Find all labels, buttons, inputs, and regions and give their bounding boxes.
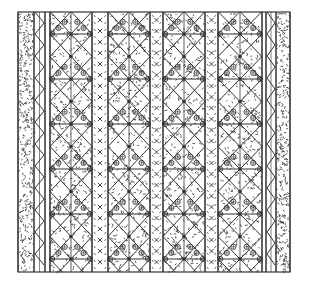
speckle-mark: [27, 204, 30, 205]
speckle-mark: [115, 220, 117, 221]
dash-mark: [105, 64, 107, 66]
speckle-mark: [279, 86, 281, 87]
speckle-mark: [281, 189, 283, 190]
speckle-mark: [277, 203, 279, 204]
dash-mark: [207, 134, 209, 136]
speckle-mark: [280, 255, 281, 256]
speckle-mark: [233, 167, 234, 168]
speckle-mark: [109, 267, 110, 269]
speckle-mark: [85, 126, 87, 127]
speckle-mark: [228, 183, 230, 184]
dash-mark: [160, 232, 162, 234]
dash-mark: [207, 50, 209, 52]
speckle-mark: [255, 99, 256, 101]
dash-mark: [160, 57, 162, 59]
dash-mark: [160, 22, 162, 24]
dash-mark: [215, 232, 217, 234]
speckle-mark: [279, 97, 281, 98]
speckle-mark: [59, 126, 60, 127]
dash-mark: [215, 57, 217, 59]
speckle-mark: [284, 13, 286, 14]
dash-mark: [105, 197, 107, 199]
speckle-mark: [27, 19, 29, 20]
speckle-mark: [284, 163, 285, 166]
speckle-mark: [202, 253, 203, 255]
speckle-mark: [222, 228, 224, 230]
speckle-mark: [174, 18, 175, 20]
speckle-mark: [284, 142, 287, 143]
speckle-mark: [283, 269, 285, 270]
speckle-mark: [78, 189, 80, 191]
dash-mark: [105, 211, 107, 213]
speckle-mark: [120, 197, 121, 198]
speckle-mark: [29, 34, 32, 35]
speckle-mark: [283, 216, 285, 218]
speckle-mark: [21, 113, 23, 114]
dash-mark: [215, 113, 217, 115]
node-dot: [238, 32, 242, 36]
speckle-mark: [19, 93, 20, 94]
speckle-mark: [126, 21, 127, 23]
speckle-mark: [282, 254, 283, 256]
speckle-mark: [278, 139, 279, 141]
dash-mark: [152, 155, 154, 157]
speckle-mark: [144, 115, 145, 116]
speckle-mark: [237, 202, 240, 203]
speckle-mark: [177, 171, 179, 172]
speckle-mark: [280, 139, 281, 141]
speckle-mark: [84, 231, 87, 232]
speckle-mark: [20, 199, 22, 200]
speckle-mark: [228, 198, 230, 199]
speckle-mark: [115, 235, 117, 236]
pattern-frame: [18, 12, 290, 272]
speckle-mark: [286, 20, 287, 22]
dash-mark: [160, 50, 162, 52]
speckle-mark: [146, 197, 147, 200]
speckle-mark: [122, 226, 123, 227]
speckle-mark: [133, 192, 135, 193]
speckle-mark: [167, 136, 168, 137]
node-dot: [127, 257, 131, 261]
dash-mark: [160, 169, 162, 171]
speckle-mark: [285, 96, 287, 98]
speckle-mark: [220, 252, 221, 255]
dash-mark: [160, 225, 162, 227]
speckle-mark: [191, 132, 192, 134]
speckle-mark: [56, 106, 58, 107]
speckle-mark: [199, 191, 200, 192]
speckle-mark: [142, 65, 145, 67]
speckle-mark: [135, 49, 137, 51]
dash-mark: [94, 85, 96, 87]
dash-mark: [207, 71, 209, 73]
speckle-mark: [72, 268, 73, 270]
speckle-mark: [181, 177, 182, 180]
speckle-mark: [245, 146, 247, 148]
speckle-mark: [199, 67, 200, 69]
dash-mark: [105, 92, 107, 94]
speckle-mark: [57, 271, 58, 274]
speckle-mark: [251, 131, 252, 132]
speckle-mark: [29, 224, 31, 225]
speckle-mark: [73, 185, 76, 186]
speckle-mark: [241, 27, 243, 29]
speckle-mark: [24, 43, 25, 45]
speckle-mark: [22, 121, 23, 123]
speckle-mark: [77, 218, 79, 219]
dash-mark: [152, 162, 154, 164]
speckle-mark: [26, 89, 28, 90]
speckle-mark: [81, 84, 82, 86]
speckle-mark: [115, 258, 116, 261]
dash-mark: [94, 190, 96, 192]
dash-mark: [160, 134, 162, 136]
speckle-mark: [279, 214, 280, 215]
dash-mark: [207, 176, 209, 178]
speckle-mark: [19, 112, 21, 113]
speckle-mark: [148, 190, 149, 192]
speckle-mark: [226, 241, 229, 242]
speckle-mark: [219, 250, 222, 251]
speckle-mark: [78, 103, 80, 104]
dash-mark: [94, 92, 96, 94]
speckle-mark: [28, 58, 29, 59]
speckle-mark: [66, 32, 68, 33]
dash-mark: [94, 197, 96, 199]
